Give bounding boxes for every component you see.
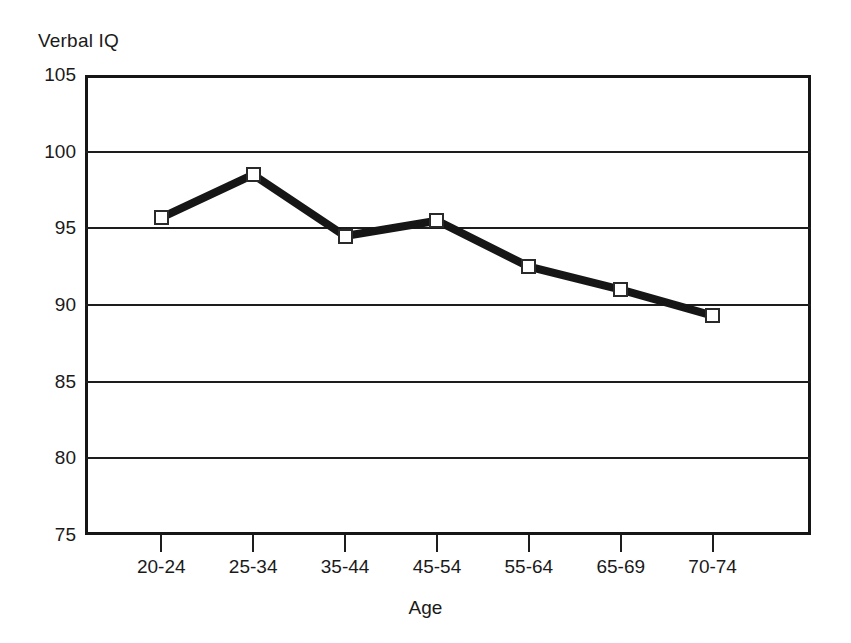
gridline-85 (85, 381, 811, 383)
data-point-25-34 (246, 167, 261, 182)
x-tick-65-69 (620, 535, 622, 552)
y-tick-label-100: 100 (26, 141, 76, 163)
x-tick-45-54 (436, 535, 438, 552)
y-tick-label-105: 105 (26, 64, 76, 86)
data-point-65-69 (613, 282, 628, 297)
verbal-iq-line-chart: Verbal IQ 1051009590858075 20-2425-3435-… (0, 0, 851, 643)
x-tick-20-24 (160, 535, 162, 552)
gridline-90 (85, 304, 811, 306)
data-point-20-24 (154, 210, 169, 225)
x-tick-55-64 (528, 535, 530, 552)
x-axis-title: Age (0, 597, 851, 619)
y-tick-label-90: 90 (26, 294, 76, 316)
data-point-35-44 (338, 229, 353, 244)
y-axis-title: Verbal IQ (38, 30, 119, 52)
y-tick-label-85: 85 (26, 371, 76, 393)
x-tick-label-70-74: 70-74 (658, 556, 768, 578)
data-point-70-74 (705, 308, 720, 323)
x-tick-35-44 (344, 535, 346, 552)
x-tick-25-34 (252, 535, 254, 552)
gridline-100 (85, 151, 811, 153)
x-tick-70-74 (712, 535, 714, 552)
data-point-45-54 (429, 213, 444, 228)
y-tick-label-75: 75 (26, 524, 76, 546)
gridline-95 (85, 227, 811, 229)
y-tick-label-80: 80 (26, 447, 76, 469)
gridline-80 (85, 457, 811, 459)
data-point-55-64 (521, 259, 536, 274)
y-tick-label-95: 95 (26, 217, 76, 239)
